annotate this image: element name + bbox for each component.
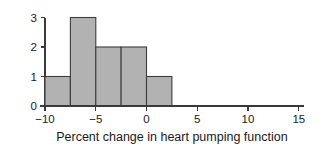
y-tick-label: 3 [31,12,37,24]
x-tick-label: −5 [89,113,102,125]
histogram-bar [121,47,146,106]
histogram-bar [147,77,172,107]
y-tick-label: 0 [31,100,37,112]
histogram-bar [45,77,70,107]
y-tick-label: 1 [31,71,37,83]
x-tick-label: 5 [194,113,200,125]
x-tick-label: 0 [143,113,149,125]
histogram-plot: 0123−10−5051015Percent change in heart p… [0,0,325,150]
x-tick-label: 10 [242,113,255,125]
histogram-bar [96,47,121,106]
y-tick-label: 2 [31,41,37,53]
histogram-figure: 0123−10−5051015Percent change in heart p… [0,0,325,150]
x-axis-title: Percent change in heart pumping function [56,130,287,144]
x-tick-label: 15 [292,113,305,125]
x-tick-label: −10 [35,113,55,125]
histogram-bar [70,18,95,107]
